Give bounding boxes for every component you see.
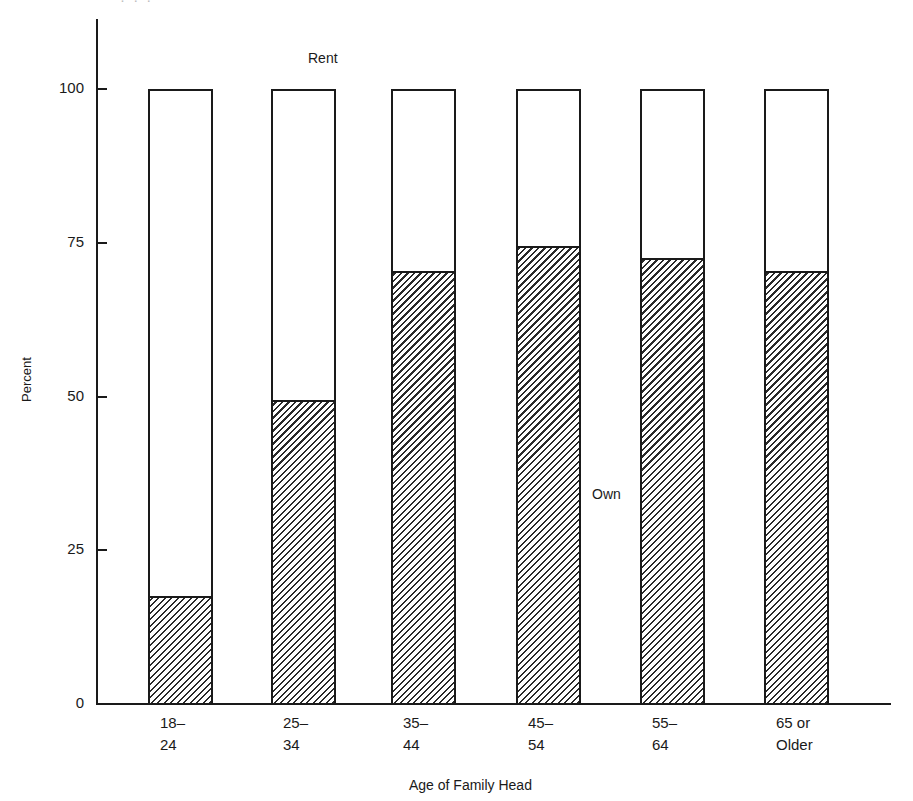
y-tick-label: 100: [44, 80, 84, 96]
x-category-label: 65 or Older: [776, 712, 813, 756]
y-tick-mark: [97, 242, 107, 244]
x-category-label: 35– 44: [403, 712, 428, 756]
own-segment: [150, 596, 211, 703]
stacked-bar: [516, 89, 581, 705]
y-axis-title: Percent: [19, 357, 34, 402]
cropped-title-strip: · · ·: [0, 0, 913, 5]
y-axis: [96, 19, 98, 705]
y-tick-label: 25: [44, 541, 84, 557]
stacked-bar: [640, 89, 705, 705]
y-tick-mark: [97, 549, 107, 551]
y-tick-label: 50: [44, 388, 84, 404]
own-segment: [518, 246, 579, 703]
stacked-bar: [764, 89, 829, 705]
y-tick-mark: [97, 396, 107, 398]
own-segment: [766, 271, 827, 704]
x-category-label: 45– 54: [528, 712, 553, 756]
x-category-label: 25– 34: [283, 712, 308, 756]
y-tick-mark: [97, 88, 107, 90]
stacked-bar: [148, 89, 213, 705]
stacked-bar: [391, 89, 456, 705]
chart-canvas: · · · 0255075100 Percent 18– 2425– 3435–…: [0, 0, 913, 801]
own-segment: [273, 400, 334, 703]
x-category-label: 55– 64: [652, 712, 677, 756]
x-category-label: 18– 24: [160, 712, 185, 756]
own-segment: [393, 271, 454, 704]
y-tick-label: 0: [44, 695, 84, 711]
cropped-title-text: · · ·: [120, 0, 153, 5]
rent-series-label: Rent: [308, 50, 338, 66]
x-axis-title: Age of Family Head: [409, 777, 532, 793]
own-series-label: Own: [592, 486, 621, 502]
y-tick-label: 75: [44, 234, 84, 250]
own-segment: [642, 258, 703, 703]
stacked-bar: [271, 89, 336, 705]
